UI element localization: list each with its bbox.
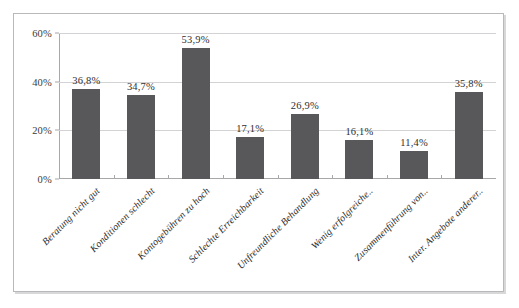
bar: [291, 114, 319, 179]
bar-value-label: 16,1%: [345, 126, 373, 137]
y-axis-tick-label: 60%: [32, 28, 52, 39]
y-axis-tick-label: 40%: [32, 76, 52, 87]
bar: [345, 140, 373, 179]
bar-value-label: 11,4%: [400, 137, 428, 148]
bar-slot: 53,9%: [168, 33, 223, 179]
bar-slot: 11,4%: [387, 33, 442, 179]
bar-slot: 17,1%: [223, 33, 278, 179]
y-axis-tick-label: 20%: [32, 125, 52, 136]
chart-frame: 0%20%40%60% 36,8%34,7%53,9%17,1%26,9%16,…: [13, 13, 504, 292]
bar-value-label: 34,7%: [127, 81, 155, 92]
bar-slot: 26,9%: [278, 33, 333, 179]
bar-slot: 34,7%: [114, 33, 169, 179]
bar-slot: 16,1%: [332, 33, 387, 179]
bar-value-label: 26,9%: [291, 100, 319, 111]
bar-slot: 35,8%: [441, 33, 496, 179]
bar: [236, 137, 264, 179]
bar: [455, 92, 483, 179]
bar: [127, 95, 155, 179]
bar-slot: 36,8%: [59, 33, 114, 179]
bar: [72, 89, 100, 179]
x-axis-category-label: Beratung nicht gut: [40, 185, 102, 247]
bar: [182, 48, 210, 179]
bar-value-label: 17,1%: [236, 123, 264, 134]
bar-value-label: 36,8%: [72, 75, 100, 86]
bar-value-label: 53,9%: [182, 34, 210, 45]
plot-area: 0%20%40%60% 36,8%34,7%53,9%17,1%26,9%16,…: [59, 33, 496, 179]
bar: [400, 151, 428, 179]
y-axis-tick-label: 0%: [38, 174, 52, 185]
bar-value-label: 35,8%: [455, 78, 483, 89]
